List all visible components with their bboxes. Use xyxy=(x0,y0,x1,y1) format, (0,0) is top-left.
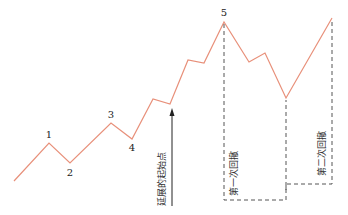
second-retracement-label: 第二次回撤 xyxy=(316,131,327,176)
wave-label-4: 4 xyxy=(129,142,135,153)
wave-label-1: 1 xyxy=(46,129,52,140)
price-wave-line xyxy=(14,18,332,181)
wave-label-3: 3 xyxy=(108,109,114,120)
wave-label-5: 5 xyxy=(221,7,227,18)
wave-label-2: 2 xyxy=(67,167,73,178)
wave-labels: 1 2 3 4 5 xyxy=(46,7,227,178)
arrow-up-icon xyxy=(170,108,175,116)
diagram-svg: 1 2 3 4 5 延展的起始点 第一次回撤 第二次回撤 xyxy=(0,0,348,215)
wave-diagram: 1 2 3 4 5 延展的起始点 第一次回撤 第二次回撤 xyxy=(0,0,348,215)
extension-start-arrow: 延展的起始点 xyxy=(156,108,175,206)
first-retracement-label: 第一次回撤 xyxy=(228,151,239,196)
extension-start-label: 延展的起始点 xyxy=(156,152,167,206)
